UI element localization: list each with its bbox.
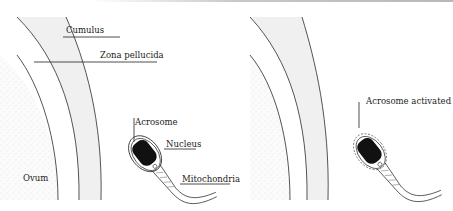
panel-before: Cumulus Zona pellucida Acrosome Nucleus … — [0, 17, 240, 211]
fertilization-diagram: Cumulus Zona pellucida Acrosome Nucleus … — [0, 0, 453, 211]
label-acrosome-activated: Acrosome activated — [365, 96, 452, 106]
panel-after: Acrosome activated — [250, 17, 452, 211]
label-acrosome: Acrosome — [134, 117, 178, 127]
label-cumulus: Cumulus — [66, 25, 104, 35]
sperm-after — [347, 116, 444, 211]
label-mitochondria: Mitochondria — [182, 174, 240, 184]
nucleus-shape — [354, 135, 384, 167]
sperm-before — [122, 118, 219, 211]
label-ovum: Ovum — [23, 173, 48, 183]
ovum-body — [250, 55, 290, 200]
label-nucleus: Nucleus — [166, 139, 201, 149]
label-zona-pellucida: Zona pellucida — [100, 50, 164, 60]
